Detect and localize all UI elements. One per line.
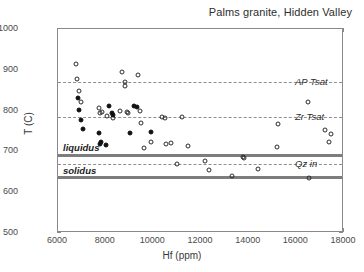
data-point: [134, 104, 139, 109]
data-point: [229, 174, 234, 179]
y-tick-label: 800: [0, 105, 18, 115]
data-point: [185, 144, 190, 149]
data-point: [256, 166, 261, 171]
y-axis-title: T (C): [23, 84, 34, 164]
y-tick-mark: [339, 232, 343, 233]
y-tick-label: 500: [0, 227, 18, 237]
data-point: [328, 132, 333, 137]
scatter-chart-figure: Palms granite, Hidden Valley T (C) Hf (p…: [0, 0, 364, 272]
data-point: [162, 115, 167, 120]
data-point: [179, 114, 184, 119]
x-tick-label: 16000: [270, 235, 320, 245]
data-point: [107, 103, 112, 108]
data-point: [207, 167, 212, 172]
data-point: [241, 156, 246, 161]
reference-line-solidus: [58, 176, 342, 179]
data-point: [141, 146, 146, 151]
data-point: [103, 142, 108, 147]
x-tick-label: 8000: [80, 235, 130, 245]
data-point: [138, 108, 143, 113]
plot-area: [57, 28, 343, 232]
data-point: [110, 112, 115, 117]
data-point: [174, 162, 179, 167]
x-tick-label: 6000: [32, 235, 82, 245]
data-point: [77, 107, 82, 112]
data-point: [78, 118, 83, 123]
x-tick-mark: [343, 228, 344, 232]
x-tick-mark: [343, 28, 344, 32]
x-tick-label: 14000: [223, 235, 273, 245]
y-tick-label: 700: [0, 145, 18, 155]
y-tick-label: 600: [0, 186, 18, 196]
y-tick-mark: [57, 232, 61, 233]
data-point: [117, 108, 122, 113]
x-tick-label: 10000: [127, 235, 177, 245]
reference-label-qz-in: Qz in: [295, 158, 317, 169]
y-tick-label: 1000: [0, 23, 18, 33]
data-point: [139, 120, 144, 125]
data-point: [75, 95, 80, 100]
data-point: [322, 128, 327, 133]
data-point: [202, 159, 207, 164]
chart-title: Palms granite, Hidden Valley: [209, 6, 352, 18]
reference-label-solidus: solidus: [63, 165, 96, 176]
data-point: [126, 110, 131, 115]
data-point: [148, 140, 153, 145]
data-point: [75, 76, 80, 81]
data-point: [81, 126, 86, 131]
data-point: [120, 70, 125, 75]
reference-line-liquidus: [58, 154, 342, 157]
x-axis-title: Hf (ppm): [0, 250, 364, 261]
data-point: [127, 131, 132, 136]
reference-label-zr-tsat: Zr Tsat: [295, 110, 324, 121]
data-point: [104, 113, 109, 118]
y-tick-label: 900: [0, 64, 18, 74]
data-point: [135, 72, 140, 77]
x-tick-label: 12000: [175, 235, 225, 245]
x-tick-label: 18000: [318, 235, 364, 245]
reference-label-liquidus: liquidus: [63, 142, 99, 153]
data-point: [326, 140, 331, 145]
data-point: [96, 131, 101, 136]
data-point: [148, 130, 153, 135]
data-point: [76, 89, 81, 94]
data-point: [306, 100, 311, 105]
data-point: [276, 122, 281, 127]
data-point: [275, 145, 280, 150]
data-point: [307, 176, 312, 181]
data-point: [78, 99, 83, 104]
data-point: [123, 83, 128, 88]
data-point: [169, 141, 174, 146]
reference-label-ap-tsat: AP Tsat: [295, 76, 328, 87]
data-point: [73, 61, 78, 66]
